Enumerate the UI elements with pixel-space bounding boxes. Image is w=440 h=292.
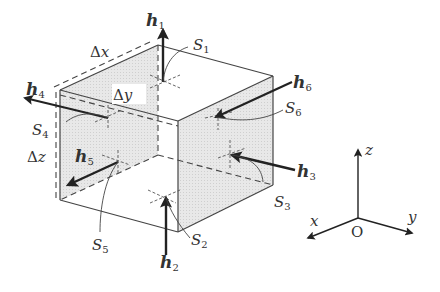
S1-label: S1 [193, 36, 210, 55]
y-axis-label: y [407, 208, 417, 226]
h6-label: h6 [293, 72, 312, 93]
z-axis-label: z [364, 141, 373, 159]
x-axis-label: x [310, 212, 319, 230]
dx-label: Δx [90, 43, 110, 61]
S2-label: S2 [191, 231, 208, 250]
diagram-svg: h1 S1 Δx Δy Δz h4 S4 h5 S5 S2 h2 h6 S6 h… [0, 0, 440, 292]
h4-label: h4 [26, 79, 45, 100]
y-axis [358, 218, 412, 233]
dy-label: Δy [113, 86, 133, 104]
S6-label: S6 [285, 99, 302, 118]
box-element-diagram: h1 S1 Δx Δy Δz h4 S4 h5 S5 S2 h2 h6 S6 h… [0, 0, 440, 292]
h1-label: h1 [146, 10, 165, 31]
coordinate-axes: z y x O [308, 141, 417, 241]
S3-label: S3 [274, 193, 291, 212]
dz-label: Δz [27, 148, 46, 166]
h2-label: h2 [160, 252, 179, 273]
S4-label: S4 [32, 121, 49, 140]
S5-label: S5 [92, 236, 109, 255]
h3-label: h3 [297, 161, 316, 182]
origin-label: O [351, 223, 363, 241]
left-face [60, 45, 158, 200]
